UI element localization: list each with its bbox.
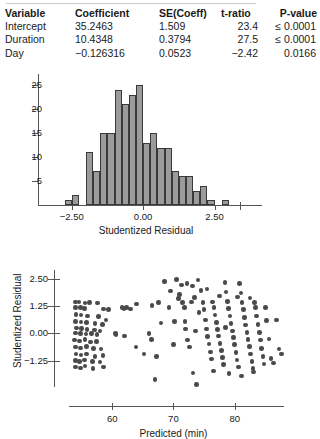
table-header-row: Variable Coefficient SE(Coeff) t-ratio P… bbox=[0, 7, 320, 20]
scatter-point bbox=[172, 319, 177, 324]
scatter-point bbox=[94, 339, 99, 344]
column-header-p-value: P-value bbox=[261, 7, 320, 20]
scatter-point bbox=[134, 345, 139, 350]
scatter-point bbox=[83, 337, 88, 342]
scatter-point bbox=[73, 365, 78, 370]
scatter-point bbox=[192, 295, 197, 300]
scatter-point bbox=[217, 294, 222, 299]
column-header-t-ratio: t-ratio bbox=[219, 7, 261, 20]
scatter-point bbox=[220, 355, 225, 360]
cell-p-value: ≤ 0.0001 bbox=[261, 33, 320, 46]
scatter-y-axis-line bbox=[54, 270, 55, 386]
cell-se: 0.3794 bbox=[155, 33, 219, 46]
scatter-point bbox=[203, 318, 208, 323]
scatter-point bbox=[205, 334, 210, 339]
column-header-coefficient: Coefficient bbox=[69, 7, 155, 20]
scatter-point bbox=[219, 348, 224, 353]
scatter-point bbox=[104, 318, 109, 323]
scatter-point bbox=[128, 307, 133, 312]
scatter-point bbox=[193, 329, 198, 334]
scatter-point bbox=[114, 332, 119, 337]
scatter-y-tick bbox=[48, 361, 60, 362]
scatter-y-tick bbox=[48, 333, 60, 334]
scatter-point bbox=[263, 305, 268, 310]
scatter-point bbox=[159, 321, 164, 326]
histogram-bar bbox=[150, 133, 157, 205]
scatter-point bbox=[74, 326, 79, 331]
scatter-point bbox=[84, 332, 89, 337]
scatter-point bbox=[93, 354, 98, 359]
histogram-x-tick bbox=[72, 205, 73, 210]
scatter-point bbox=[224, 290, 229, 295]
scatter-point bbox=[254, 314, 259, 319]
regression-table: Variable Coefficient SE(Coeff) t-ratio P… bbox=[0, 2, 305, 60]
scatter-point bbox=[101, 353, 106, 358]
scatter-point bbox=[77, 339, 82, 344]
scatter-y-axis-title: Studentized Residual bbox=[12, 274, 23, 369]
histogram-y-tick-label: 10 bbox=[20, 152, 42, 162]
histogram-bar bbox=[157, 148, 164, 206]
scatter-point bbox=[153, 377, 158, 382]
scatter-point bbox=[245, 330, 250, 335]
histogram-bar bbox=[86, 152, 93, 205]
scatter-y-tick bbox=[48, 279, 60, 280]
scatter-point bbox=[201, 300, 206, 305]
cell-coefficient: 35.2463 bbox=[69, 20, 155, 33]
histogram-bar bbox=[136, 85, 143, 205]
scatter-point bbox=[274, 318, 279, 323]
scatter-point bbox=[235, 358, 240, 363]
scatter-point bbox=[73, 345, 78, 350]
scatter-point bbox=[191, 371, 196, 376]
scatter-point bbox=[247, 344, 252, 349]
histogram-bar bbox=[129, 95, 136, 205]
scatter-point bbox=[79, 320, 84, 325]
scatter-point bbox=[185, 338, 190, 343]
histogram-bar bbox=[72, 195, 79, 205]
scatter-point bbox=[182, 305, 187, 310]
scatter-point bbox=[84, 352, 89, 357]
cell-t-ratio: 23.4 bbox=[219, 20, 261, 33]
histogram-bar bbox=[107, 133, 114, 205]
scatter-point bbox=[212, 305, 217, 310]
scatter-point bbox=[98, 360, 103, 365]
scatter-point bbox=[214, 320, 219, 325]
scatter-point bbox=[230, 329, 235, 334]
histogram-bar bbox=[193, 191, 200, 205]
scatter-point bbox=[205, 287, 210, 292]
cell-variable: Day bbox=[0, 47, 69, 60]
scatter-point bbox=[134, 302, 139, 307]
scatter-point bbox=[194, 382, 199, 387]
scatter-point bbox=[253, 305, 258, 310]
cell-p-value: ≤ 0.0001 bbox=[261, 20, 320, 33]
scatter-point bbox=[258, 338, 263, 343]
histogram-bar bbox=[172, 171, 179, 205]
scatter-point bbox=[93, 321, 98, 326]
scatter-point bbox=[154, 354, 159, 359]
scatter-point bbox=[248, 352, 253, 357]
scatter-point bbox=[241, 307, 246, 312]
scatter-point bbox=[84, 344, 89, 349]
scatter-point bbox=[213, 313, 218, 318]
scatter-point bbox=[242, 315, 247, 320]
scatter-point bbox=[211, 369, 216, 374]
scatter-point bbox=[190, 284, 195, 289]
cell-variable: Duration bbox=[0, 33, 69, 46]
scatter-point bbox=[180, 300, 185, 305]
scatter-point bbox=[183, 327, 188, 332]
column-header-variable: Variable bbox=[0, 7, 69, 20]
scatter-y-tick bbox=[48, 306, 60, 307]
scatter-point bbox=[106, 307, 111, 312]
scatter-point bbox=[150, 303, 155, 308]
cell-coefficient: −0.126316 bbox=[69, 47, 155, 60]
scatter-point bbox=[91, 346, 96, 351]
scatter-point bbox=[101, 365, 106, 370]
scatter-point bbox=[229, 321, 234, 326]
scatter-point bbox=[82, 306, 87, 311]
histogram-x-tick bbox=[215, 205, 216, 210]
scatter-point bbox=[221, 362, 226, 367]
scatter-point bbox=[77, 300, 82, 305]
scatter-point bbox=[235, 295, 240, 300]
scatter-x-axis-title: Predicted (min) bbox=[113, 428, 233, 439]
histogram-bar bbox=[115, 90, 122, 205]
table-row: Intercept 35.2463 1.509 23.4 ≤ 0.0001 bbox=[0, 20, 320, 33]
